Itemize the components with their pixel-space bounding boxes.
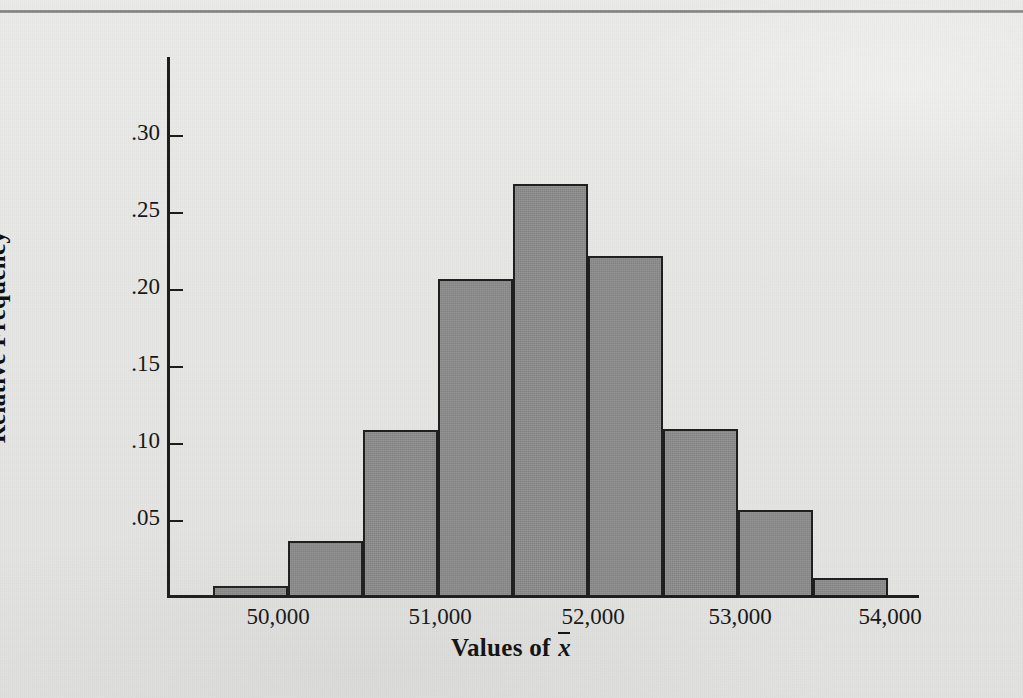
x-axis-tick-label: 52,000 [533, 604, 653, 630]
y-axis-title: Relative Frequency [0, 227, 11, 447]
x-axis-tick-label: 53,000 [680, 604, 800, 630]
histogram-bar [588, 256, 663, 595]
histogram-bar [738, 510, 813, 595]
histogram-bar [813, 578, 888, 595]
histogram-bar [288, 541, 363, 595]
y-axis-tick-label: .20 [100, 274, 160, 300]
histogram-bar [663, 429, 738, 595]
relative-frequency-histogram: .05.10.15.20.25.30 50,00051,00052,00053,… [0, 0, 1023, 698]
x-axis-tick-label: 51,000 [380, 604, 500, 630]
figure-page: .05.10.15.20.25.30 50,00051,00052,00053,… [0, 0, 1023, 698]
y-axis-tick [170, 212, 183, 214]
y-axis-line [167, 57, 170, 598]
y-axis-title-text: Relative Frequency [0, 231, 10, 444]
x-axis-title: Values of x [0, 634, 1023, 662]
y-axis-tick-label: .25 [100, 197, 160, 223]
y-axis-tick [170, 289, 183, 291]
y-axis-tick-label: .05 [100, 505, 160, 531]
y-axis-tick [170, 135, 183, 137]
y-axis-tick-label: .30 [100, 120, 160, 146]
histogram-bar [363, 430, 438, 595]
x-axis-title-prefix: Values of [451, 634, 557, 661]
histogram-bar [213, 586, 288, 595]
y-axis-tick [170, 443, 183, 445]
x-bar-symbol: x [557, 634, 572, 661]
y-axis-tick [170, 520, 183, 522]
y-axis-tick [170, 366, 183, 368]
x-axis-tick-label: 54,000 [830, 604, 950, 630]
y-axis-tick-label: .15 [100, 351, 160, 377]
histogram-bar [513, 184, 588, 595]
x-axis-tick-label: 50,000 [218, 604, 338, 630]
y-axis-tick-label: .10 [100, 428, 160, 454]
histogram-bar [438, 279, 513, 595]
x-axis-line [167, 595, 919, 598]
